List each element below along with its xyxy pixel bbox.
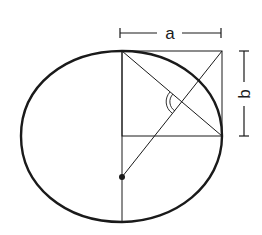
label-a: a <box>165 24 175 43</box>
angle-arc-inner <box>170 94 175 111</box>
angle-arc-outer <box>166 92 172 113</box>
dimension-a: a <box>120 24 221 43</box>
diagonal-top-left-to-right <box>122 51 222 136</box>
line-top-right-to-center <box>122 51 222 177</box>
dimension-b: b <box>235 51 254 136</box>
oval-construction-diagram: a b <box>0 0 262 235</box>
label-b: b <box>235 89 254 98</box>
center-point-dot <box>119 174 125 180</box>
